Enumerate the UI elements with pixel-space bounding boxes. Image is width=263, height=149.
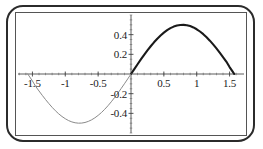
x-tick-label: 0.5 xyxy=(157,78,170,89)
plot-frame: -1.5-1-0.50.511.50.40.2-0.2-0.4 xyxy=(15,12,247,136)
curve-branch-positive xyxy=(131,25,234,74)
y-tick-label: -0.2 xyxy=(16,88,127,99)
y-tick-label: -0.4 xyxy=(16,108,127,119)
y-tick-label: 0.2 xyxy=(16,49,127,60)
figure-root: -1.5-1-0.50.511.50.40.2-0.2-0.4 xyxy=(0,0,263,149)
y-tick-label: 0.4 xyxy=(16,29,127,40)
x-tick-label: 1.5 xyxy=(223,78,236,89)
x-tick-label: 1 xyxy=(194,78,199,89)
